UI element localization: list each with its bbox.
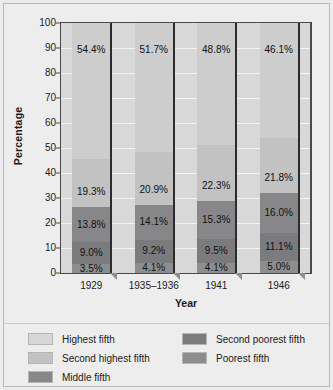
- stacked-bar[interactable]: 5.0%11.1%16.0%21.8%46.1%: [260, 23, 300, 273]
- bar-segment-value-label: 46.1%: [265, 45, 293, 55]
- legend-item[interactable]: Highest fifth: [28, 330, 150, 348]
- bar-segment-value-label: 51.7%: [140, 45, 168, 55]
- bar-segment-value-label: 4.1%: [205, 263, 228, 273]
- bar-segment-value-label: 9.5%: [205, 246, 228, 256]
- legend: Highest fifthSecond highest fifthMiddle …: [4, 323, 329, 387]
- chart-figure: Percentage 1009080706050403020100 3.5%9.…: [0, 0, 333, 390]
- plot-wrapper: Percentage 1009080706050403020100 3.5%9.…: [0, 0, 333, 322]
- bar-segment[interactable]: 4.1%: [135, 263, 173, 273]
- bar-segment[interactable]: 21.8%: [260, 138, 298, 193]
- bar-segment-value-label: 22.3%: [202, 181, 230, 191]
- bar-segment-value-label: 5.0%: [267, 262, 290, 272]
- legend-item[interactable]: Second highest fifth: [28, 349, 150, 367]
- legend-label: Second highest fifth: [62, 353, 150, 364]
- legend-column-left: Highest fifthSecond highest fifthMiddle …: [28, 330, 150, 387]
- bar-segment[interactable]: 11.1%: [260, 233, 298, 261]
- bar-segment-value-label: 16.0%: [265, 208, 293, 218]
- legend-swatch: [28, 352, 53, 364]
- x-axis-tick: 1946: [268, 280, 290, 291]
- y-axis-tick: 80: [16, 67, 56, 78]
- bar-segment-value-label: 21.8%: [265, 173, 293, 183]
- y-axis-tick: 0: [16, 267, 56, 278]
- bar-segment[interactable]: 15.3%: [197, 201, 235, 239]
- legend-swatch: [182, 352, 207, 364]
- bar-segment[interactable]: 16.0%: [260, 193, 298, 233]
- bar-segment-value-label: 54.4%: [77, 45, 105, 55]
- bar-segment-value-label: 19.3%: [77, 187, 105, 197]
- bar-segment[interactable]: 5.0%: [260, 261, 298, 274]
- bar-slot: 4.1%9.5%15.3%22.3%48.8%: [197, 23, 237, 273]
- bar-segment[interactable]: 4.1%: [197, 263, 235, 273]
- bar-slot: 4.1%9.2%14.1%20.9%51.7%: [135, 23, 175, 273]
- bar-segment[interactable]: 48.8%: [197, 23, 235, 145]
- y-axis-tick: 60: [16, 117, 56, 128]
- legend-swatch: [28, 371, 53, 383]
- bar-segment[interactable]: 14.1%: [135, 205, 173, 240]
- stacked-bar[interactable]: 4.1%9.5%15.3%22.3%48.8%: [197, 23, 237, 273]
- y-axis-tick: 100: [16, 17, 56, 28]
- y-axis-tick: 70: [16, 92, 56, 103]
- bar-segment[interactable]: 9.5%: [197, 239, 235, 263]
- bar-segment[interactable]: 9.2%: [135, 240, 173, 263]
- bar-segment-value-label: 14.1%: [140, 217, 168, 227]
- y-axis-tick: 40: [16, 167, 56, 178]
- bar-segment[interactable]: 20.9%: [135, 152, 173, 204]
- bar-3d-shadow: [110, 273, 117, 280]
- legend-column-right: Second poorest fifthPoorest fifth: [182, 330, 305, 368]
- bar-segment-value-label: 4.1%: [142, 263, 165, 273]
- x-axis-tick: 1929: [80, 280, 102, 291]
- legend-label: Middle fifth: [62, 372, 110, 383]
- bar-segment-value-label: 15.3%: [202, 215, 230, 225]
- y-axis-tick: 20: [16, 217, 56, 228]
- bar-segment-value-label: 3.5%: [80, 264, 103, 274]
- legend-label: Second poorest fifth: [216, 334, 305, 345]
- bar-segment-value-label: 9.2%: [142, 246, 165, 256]
- bar-segment-value-label: 48.8%: [202, 45, 230, 55]
- bar-segment[interactable]: 51.7%: [135, 23, 173, 152]
- stacked-bar[interactable]: 4.1%9.2%14.1%20.9%51.7%: [135, 23, 175, 273]
- x-axis-tick: 1935–1936: [129, 280, 179, 291]
- legend-item[interactable]: Poorest fifth: [182, 349, 305, 367]
- bar-segment-value-label: 11.1%: [265, 242, 293, 252]
- legend-swatch: [182, 333, 207, 345]
- bar-segment-value-label: 9.0%: [80, 248, 103, 258]
- stacked-bar[interactable]: 3.5%9.0%13.8%19.3%54.4%: [72, 23, 112, 273]
- bar-segment[interactable]: 9.0%: [72, 242, 110, 265]
- legend-item[interactable]: Middle fifth: [28, 368, 150, 386]
- y-axis-tick: 90: [16, 42, 56, 53]
- legend-swatch: [28, 333, 53, 345]
- x-axis-label: Year: [60, 297, 312, 309]
- y-axis-tick: 10: [16, 242, 56, 253]
- legend-label: Highest fifth: [62, 334, 115, 345]
- bar-3d-shadow: [235, 273, 242, 280]
- bar-slot: 3.5%9.0%13.8%19.3%54.4%: [72, 23, 112, 273]
- bar-3d-shadow: [298, 273, 305, 280]
- bar-segment-value-label: 20.9%: [140, 185, 168, 195]
- bar-slot: 5.0%11.1%16.0%21.8%46.1%: [260, 23, 300, 273]
- bar-segment[interactable]: 54.4%: [72, 23, 110, 159]
- bar-segment[interactable]: 46.1%: [260, 23, 298, 138]
- bar-3d-shadow: [173, 273, 180, 280]
- bar-segment[interactable]: 3.5%: [72, 264, 110, 273]
- legend-item[interactable]: Second poorest fifth: [182, 330, 305, 348]
- bar-segment-value-label: 13.8%: [77, 220, 105, 230]
- bar-segment[interactable]: 19.3%: [72, 159, 110, 207]
- legend-label: Poorest fifth: [216, 353, 269, 364]
- plot-area: 3.5%9.0%13.8%19.3%54.4%4.1%9.2%14.1%20.9…: [60, 22, 312, 274]
- y-axis-tick: 30: [16, 192, 56, 203]
- y-axis-tick: 50: [16, 142, 56, 153]
- bar-segment[interactable]: 13.8%: [72, 207, 110, 242]
- x-axis-tick: 1941: [205, 280, 227, 291]
- bar-segment[interactable]: 22.3%: [197, 145, 235, 201]
